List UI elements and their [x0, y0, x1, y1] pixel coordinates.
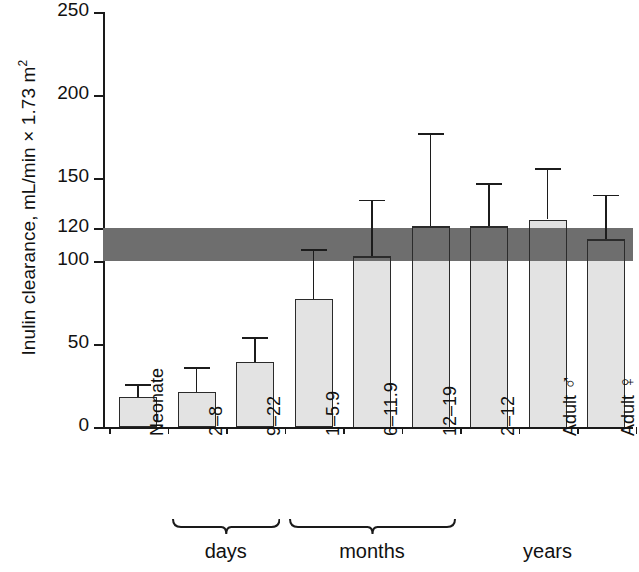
error-bar-cap	[476, 183, 502, 185]
bar-segment-in-band	[529, 228, 567, 261]
x-axis-label-text: 12–19	[440, 386, 460, 436]
y-tick-mark	[94, 261, 103, 263]
gender-symbol-icon: ♀	[615, 374, 638, 390]
y-tick-label: 200	[57, 82, 89, 104]
x-axis-label-9: Adult ♀	[615, 374, 639, 436]
x-axis-label-4: 1–5.9	[323, 391, 344, 436]
error-bar-stem	[137, 384, 139, 397]
bar-top-edge	[529, 220, 567, 222]
x-axis-label-2: 2–8	[206, 406, 227, 436]
gender-symbol-icon: ♂	[557, 374, 580, 390]
error-bar-cap	[242, 337, 268, 339]
x-axis-label-text: Adult	[560, 390, 580, 436]
bar-segment-in-band	[470, 228, 508, 261]
error-bar-cap	[593, 195, 619, 197]
y-tick-label: 250	[57, 0, 89, 21]
x-axis-label-text: 2–8	[206, 406, 226, 436]
error-bar-cap	[301, 249, 327, 251]
x-axis-label-text: Adult	[618, 390, 638, 436]
y-tick-mark	[94, 178, 103, 180]
bar-segment-in-band	[587, 239, 625, 261]
error-bar-stem	[605, 195, 607, 240]
x-axis-label-1: Neonate	[147, 368, 168, 436]
x-axis-label-text: Neonate	[147, 368, 167, 436]
bar-top-edge	[353, 256, 391, 258]
y-tick-label: 120	[57, 215, 89, 237]
x-axis-line	[103, 427, 633, 429]
plot-area: 050100120150200250	[103, 12, 633, 427]
y-tick-mark	[94, 228, 103, 230]
error-bar-stem	[196, 367, 198, 392]
y-axis-label-exponent: 2	[16, 60, 30, 67]
y-tick-mark	[94, 344, 103, 346]
x-tick-mark	[109, 427, 111, 434]
group-brace-months	[289, 518, 456, 536]
y-tick-mark	[94, 12, 103, 14]
error-bar-cap	[184, 367, 210, 369]
group-brace-days	[172, 518, 281, 536]
bar-top-edge	[587, 239, 625, 241]
error-bar-stem	[371, 200, 373, 256]
group-label-days: days	[172, 540, 281, 563]
x-axis-label-text: 6–11.9	[381, 382, 401, 436]
y-tick-mark	[94, 95, 103, 97]
group-label-years: years	[464, 540, 631, 563]
error-bar-stem	[430, 133, 432, 226]
x-axis-label-7: 2–12	[498, 396, 519, 436]
x-axis-label-text: 1–5.9	[323, 391, 343, 436]
x-axis-label-text: 9–22	[264, 396, 284, 436]
y-tick-label: 0	[78, 414, 89, 436]
x-axis-label-8: Adult ♂	[557, 374, 581, 436]
y-tick-label: 150	[57, 165, 89, 187]
error-bar-stem	[313, 249, 315, 299]
error-bar-stem	[547, 168, 549, 219]
error-bar-cap	[418, 133, 444, 135]
y-axis-line	[103, 12, 105, 428]
error-bar-cap	[359, 200, 385, 202]
y-axis-label: Inulin clearance, mL/min × 1.73 m2	[16, 0, 39, 418]
error-bar-stem	[254, 337, 256, 362]
x-axis-label-5: 6–11.9	[381, 382, 402, 436]
y-axis-label-text: Inulin clearance, mL/min × 1.73 m	[18, 67, 39, 356]
bar-top-edge	[412, 226, 450, 228]
error-bar-cap	[535, 168, 561, 170]
x-axis-label-text: 2–12	[498, 396, 518, 436]
x-axis-label-6: 12–19	[440, 386, 461, 436]
y-tick-label: 50	[68, 331, 89, 353]
y-tick-mark	[94, 427, 103, 429]
x-axis-label-3: 9–22	[264, 396, 285, 436]
bar-segment-in-band	[412, 228, 450, 261]
error-bar-stem	[488, 183, 490, 226]
y-tick-label: 100	[57, 248, 89, 270]
bar-top-edge	[470, 226, 508, 228]
group-label-months: months	[289, 540, 456, 563]
